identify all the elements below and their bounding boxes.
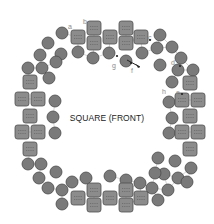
- round-bead: [56, 198, 68, 210]
- round-bead: [43, 72, 55, 84]
- square-bead: [15, 92, 29, 106]
- diagram-title: SQUARE (FRONT): [0, 113, 214, 123]
- round-bead: [163, 127, 175, 139]
- square-bead: [87, 36, 101, 50]
- round-bead: [49, 95, 61, 107]
- round-bead: [152, 194, 164, 206]
- square-bead: [71, 191, 85, 205]
- round-bead: [72, 46, 84, 58]
- round-bead: [22, 158, 34, 170]
- label-f: f: [131, 67, 133, 74]
- bead-pattern-diagram: abcdefgh: [0, 0, 214, 224]
- square-bead: [23, 75, 37, 89]
- round-bead: [42, 37, 54, 49]
- label-d: d: [171, 59, 175, 66]
- round-bead: [33, 172, 45, 184]
- square-bead: [191, 125, 205, 139]
- round-bead: [154, 59, 166, 71]
- round-bead: [56, 184, 68, 196]
- round-bead: [152, 152, 164, 164]
- round-bead: [149, 167, 161, 179]
- round-bead: [134, 177, 146, 189]
- round-bead: [166, 41, 178, 53]
- square-bead: [87, 198, 101, 212]
- square-bead: [23, 142, 37, 156]
- square-bead: [134, 30, 148, 44]
- round-bead: [66, 176, 78, 188]
- label-a: a: [68, 23, 72, 30]
- square-bead: [71, 30, 85, 44]
- round-bead: [49, 127, 61, 139]
- square-bead: [134, 191, 148, 205]
- round-bead: [50, 166, 62, 178]
- label-h: h: [162, 88, 166, 95]
- round-bead: [34, 49, 46, 61]
- square-bead: [183, 142, 197, 156]
- square-bead: [31, 125, 45, 139]
- round-bead: [36, 62, 48, 74]
- square-bead: [87, 183, 101, 197]
- square-bead: [175, 125, 189, 139]
- square-bead: [31, 92, 45, 106]
- round-bead: [42, 182, 54, 194]
- square-bead: [15, 125, 29, 139]
- round-bead: [56, 27, 68, 39]
- round-bead: [50, 56, 62, 68]
- round-bead: [187, 64, 199, 76]
- round-bead: [163, 96, 175, 108]
- square-bead: [87, 21, 101, 35]
- label-g: g: [112, 62, 116, 70]
- round-bead: [22, 62, 34, 74]
- round-bead: [120, 55, 132, 67]
- label-b: b: [83, 18, 87, 25]
- round-bead: [104, 170, 116, 182]
- round-bead: [181, 176, 193, 188]
- round-bead: [151, 42, 163, 54]
- round-bead: [35, 158, 47, 170]
- round-bead: [169, 155, 181, 167]
- round-bead: [136, 47, 148, 59]
- round-bead: [87, 52, 99, 64]
- round-bead: [80, 172, 92, 184]
- square-bead: [103, 30, 117, 44]
- round-bead: [175, 52, 187, 64]
- square-bead: [103, 191, 117, 205]
- square-bead: [183, 76, 197, 90]
- round-bead: [162, 184, 174, 196]
- round-bead: [154, 29, 166, 41]
- square-bead: [119, 198, 133, 212]
- round-bead: [103, 47, 115, 59]
- label-e: e: [176, 89, 180, 96]
- square-bead: [191, 93, 205, 107]
- round-bead: [185, 162, 197, 174]
- square-bead: [119, 21, 133, 35]
- square-bead: [119, 36, 133, 50]
- round-bead: [166, 76, 178, 88]
- square-bead: [119, 183, 133, 197]
